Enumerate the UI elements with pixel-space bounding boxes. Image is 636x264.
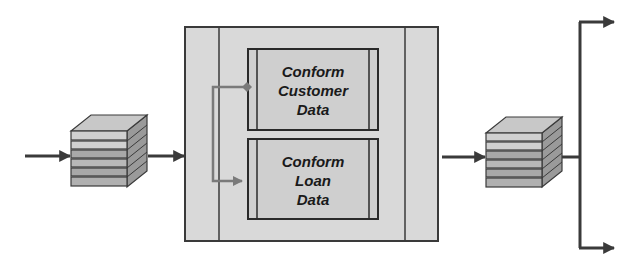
target-stack-icon xyxy=(486,117,562,187)
process-label-customer: Conform Customer Data xyxy=(258,52,368,128)
process-label-line: Data xyxy=(258,190,368,209)
process-label-line: Data xyxy=(258,100,368,119)
process-label-line: Customer xyxy=(258,81,368,100)
diagram-canvas xyxy=(0,0,636,264)
process-label-line: Loan xyxy=(258,171,368,190)
process-label-line: Conform xyxy=(258,62,368,81)
process-label-loan: Conform Loan Data xyxy=(258,142,368,218)
process-label-line: Conform xyxy=(258,152,368,171)
output-branches xyxy=(562,22,614,248)
source-stack-icon xyxy=(71,115,147,187)
